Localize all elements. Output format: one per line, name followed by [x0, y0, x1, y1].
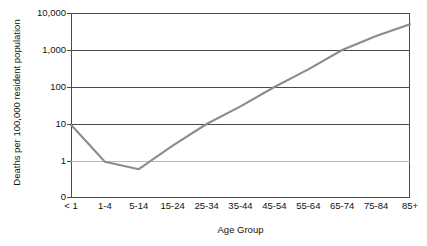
- x-axis-title: Age Group: [71, 224, 410, 236]
- x-tick-label: 35-44: [228, 200, 252, 212]
- y-tick-mark: [67, 13, 71, 14]
- y-tick-label: 0: [8, 192, 66, 202]
- x-tick-label: 5-14: [129, 200, 148, 212]
- x-tick-label: 85+: [402, 200, 418, 212]
- y-tick-label: 10: [8, 119, 66, 129]
- x-tick-label: 1-4: [98, 200, 112, 212]
- x-tick-label: 65-74: [330, 200, 354, 212]
- y-tick-mark: [67, 50, 71, 51]
- x-tick-label: 75-84: [364, 200, 388, 212]
- x-axis-tick-labels: < 11-45-1415-2425-3435-4445-5455-6465-74…: [71, 200, 410, 216]
- line-chart-figure: Deaths per 100,000 resident population 1…: [0, 0, 427, 246]
- y-tick-mark: [67, 124, 71, 125]
- series-line-death-rate: [71, 13, 410, 197]
- plot-area: [71, 13, 410, 197]
- x-tick-label: 55-64: [296, 200, 320, 212]
- x-tick-label: 15-24: [161, 200, 185, 212]
- y-tick-label: 100: [8, 82, 66, 92]
- x-tick-label: 45-54: [262, 200, 286, 212]
- y-tick-label: 1,000: [8, 45, 66, 55]
- y-tick-mark: [67, 161, 71, 162]
- y-tick-label: 10,000: [8, 8, 66, 18]
- x-tick-label: 25-34: [194, 200, 218, 212]
- y-tick-mark: [67, 87, 71, 88]
- x-axis-line: [71, 197, 410, 198]
- x-tick-label: < 1: [64, 200, 77, 212]
- series-polyline: [71, 24, 410, 169]
- y-axis-tick-labels: 10,0001,0001001010: [8, 0, 66, 246]
- y-tick-label: 1: [8, 156, 66, 166]
